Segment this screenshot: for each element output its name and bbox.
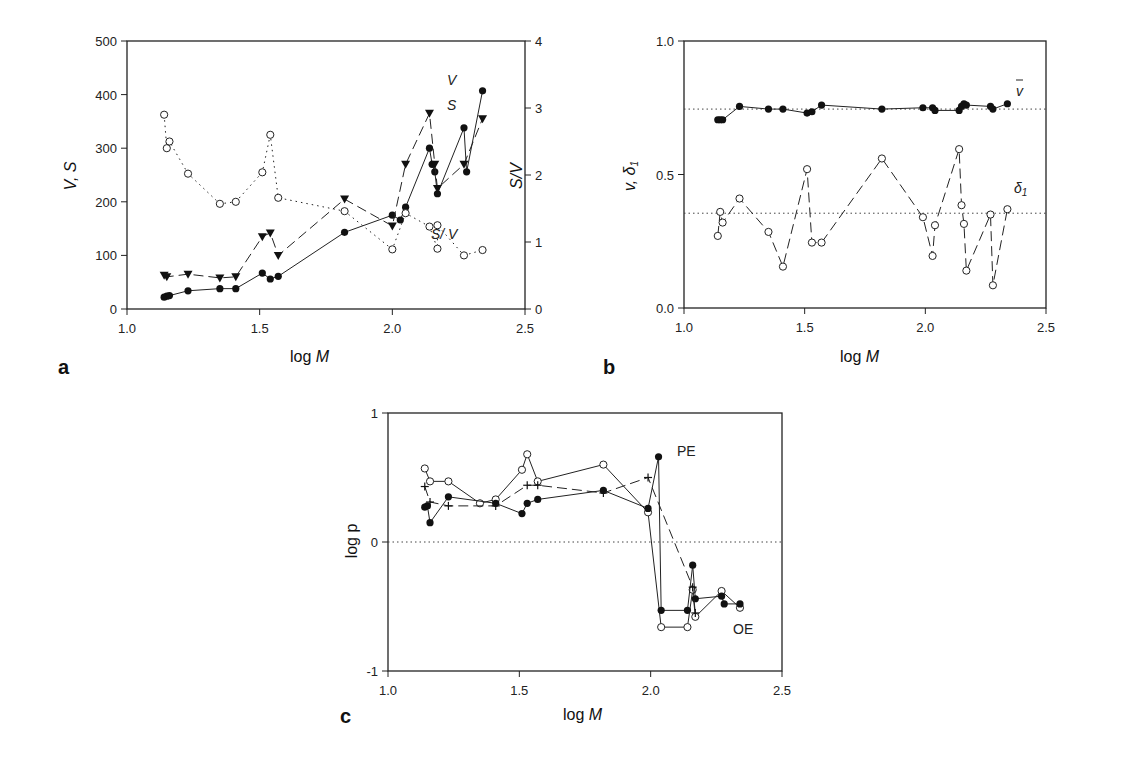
data-point xyxy=(166,292,173,299)
y-right-tick-label: 3 xyxy=(535,101,542,116)
data-point xyxy=(524,451,531,458)
data-point xyxy=(779,263,786,270)
data-point xyxy=(163,145,170,152)
y-tick-label: 200 xyxy=(95,195,117,210)
data-point xyxy=(956,146,963,153)
data-point xyxy=(340,196,349,204)
data-point xyxy=(644,505,651,512)
data-point xyxy=(518,510,525,517)
data-point xyxy=(1004,100,1011,107)
data-point xyxy=(963,101,970,108)
x-tick-label: 1.5 xyxy=(510,683,528,698)
x-tick-label: 1.0 xyxy=(379,683,397,698)
data-point xyxy=(401,161,410,169)
y-tick-label: -1 xyxy=(366,664,378,679)
x-tick-label: 2.5 xyxy=(773,683,791,698)
panel-b-ylabel: v, δ1 xyxy=(621,161,640,191)
y-right-tick-label: 4 xyxy=(535,34,542,49)
data-point xyxy=(184,170,191,177)
data-point xyxy=(818,239,825,246)
annotation-vbar: v xyxy=(1016,83,1024,99)
y-tick-label: 0.0 xyxy=(656,301,674,316)
data-point xyxy=(714,232,721,239)
data-point xyxy=(736,103,743,110)
x-tick-label: 1.5 xyxy=(796,320,814,335)
data-point xyxy=(919,214,926,221)
y-tick-label: 0.5 xyxy=(656,168,674,183)
y-right-tick-label: 1 xyxy=(535,235,542,250)
data-point xyxy=(721,600,728,607)
data-point xyxy=(184,287,191,294)
data-point xyxy=(658,624,665,631)
data-point xyxy=(717,208,724,215)
x-tick-label: 2.5 xyxy=(1037,320,1055,335)
data-point xyxy=(433,185,442,193)
panel-b-chart: 1.01.52.02.50.00.51.0 xyxy=(656,34,1055,335)
panel-b-xlabel: log M xyxy=(840,348,880,365)
data-point xyxy=(719,116,726,123)
y-tick-label: 0 xyxy=(371,535,378,550)
data-point xyxy=(989,105,996,112)
data-point xyxy=(479,246,486,253)
panel-a-ylabel-right: S/V xyxy=(508,162,525,189)
annotation-delta: δ1 xyxy=(1014,180,1027,198)
data-point xyxy=(232,198,239,205)
data-point xyxy=(600,461,607,468)
y-right-tick-label: 2 xyxy=(535,168,542,183)
annotation-S: S xyxy=(447,97,457,113)
data-point xyxy=(275,273,282,280)
x-tick-label: 2.5 xyxy=(516,321,534,336)
data-point xyxy=(425,110,434,118)
panel-a-xlabel: log M xyxy=(290,348,330,365)
data-point xyxy=(931,107,938,114)
data-point xyxy=(931,222,938,229)
data-point xyxy=(341,229,348,236)
series-line xyxy=(718,149,1008,285)
data-point xyxy=(258,233,267,241)
data-point xyxy=(274,252,283,260)
data-point xyxy=(267,275,274,282)
data-point xyxy=(779,105,786,112)
data-point xyxy=(388,222,397,230)
data-point xyxy=(266,229,275,237)
panel-a-label: a xyxy=(58,356,70,378)
data-point xyxy=(987,211,994,218)
data-point xyxy=(684,607,691,614)
annotation-V: V xyxy=(447,72,458,88)
data-point xyxy=(445,493,452,500)
figure: 1.01.52.02.5010020030040050001234 1.01.5… xyxy=(0,0,1144,770)
data-point xyxy=(259,169,266,176)
y-right-tick-label: 0 xyxy=(535,302,542,317)
x-tick-label: 1.0 xyxy=(118,321,136,336)
data-point xyxy=(166,138,173,145)
data-point xyxy=(426,519,433,526)
panel-b-label: b xyxy=(603,356,615,378)
data-point xyxy=(1004,206,1011,213)
y-tick-label: 0 xyxy=(110,302,117,317)
data-point xyxy=(460,124,467,131)
y-tick-label: 1 xyxy=(371,406,378,421)
y-tick-label: 1.0 xyxy=(656,34,674,49)
data-point xyxy=(808,108,815,115)
y-tick-label: 300 xyxy=(95,141,117,156)
data-point xyxy=(878,105,885,112)
data-point xyxy=(402,210,409,217)
y-tick-label: 500 xyxy=(95,34,117,49)
data-point xyxy=(534,496,541,503)
annotation-PE: PE xyxy=(677,443,696,459)
data-point xyxy=(478,115,487,123)
plot-frame xyxy=(684,41,1046,308)
data-point xyxy=(479,87,486,94)
data-point xyxy=(161,111,168,118)
panel-c-chart: 1.01.52.02.5-101 xyxy=(366,406,791,698)
data-point xyxy=(958,202,965,209)
panel-c-ylabel: log p xyxy=(343,524,360,559)
data-point xyxy=(655,453,662,460)
data-point xyxy=(765,228,772,235)
data-point xyxy=(963,267,970,274)
data-point xyxy=(421,465,428,472)
data-point xyxy=(445,478,452,485)
x-tick-label: 2.0 xyxy=(383,321,401,336)
data-point xyxy=(524,500,531,507)
data-point xyxy=(765,105,772,112)
